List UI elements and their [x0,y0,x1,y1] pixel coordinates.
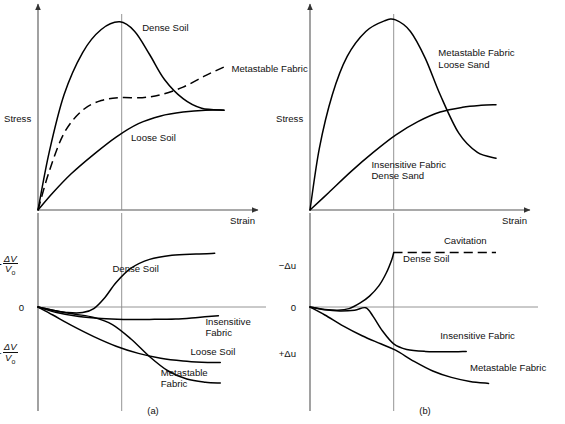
panel-a-volume-series-group: Dense SoilInsensitiveFabricLoose SoilMet… [38,253,251,389]
panel-a-stress-label-loose-soil: Loose Soil [131,132,176,143]
panel-b-stress-curve-insensitive-fabric-dense-sand [310,105,496,210]
panel-b-porepressure-zero-label: 0 [291,302,296,313]
panel-a-stress-curve-loose-soil [38,110,224,210]
panel-b-porepressure-curve-metastable-fabric [310,307,489,383]
caption-panel-a: (a) [147,405,158,416]
figure-container: StrainStress0StrainStress0Dense SoilMeta… [0,0,565,424]
panel-a-volume-label-dense-soil: Dense Soil [112,263,158,274]
fraction-sign: − [0,349,2,359]
panel-a-volume-label-metastable-fabric: MetastableFabric [161,367,208,390]
panel-b-axis-label-positive-delta-u: +Δu [279,348,296,359]
fraction-stack: ΔVVo [3,254,18,277]
panel-b-stress-x-axis-label: Strain [502,215,527,226]
panel-b-porepressure-label-cavitation: Cavitation [444,235,487,246]
panel-a-stress-series-group: Dense SoilMetastable FabricLoose Soil [38,22,308,210]
panel-b-stress-y-axis-label: Stress [276,113,303,124]
fraction-denominator: Vo [4,264,16,276]
panel-b-stress-label-insensitive-fabric-dense-sand: Insensitive FabricDense Sand [371,159,446,182]
panel-b-porepressure-series-group: CavitationDense SoilInsensitive FabricMe… [310,235,546,383]
panel-b-porepressure-label-insensitive-fabric: Insensitive Fabric [440,330,515,341]
panel-b-porepressure-label-metastable-fabric: Metastable Fabric [470,362,546,373]
panel-a-volume-zero-label: 0 [19,302,24,313]
panel-a-stress-curve-dense-soil [38,22,224,210]
caption-panel-b: (b) [419,405,430,416]
panel-a-volume-label-insensitive-fabric: InsensitiveFabric [205,316,250,339]
fraction-stack: ΔVVo [3,342,18,365]
panel-a-stress-label-dense-soil: Dense Soil [142,22,188,33]
panel-b-stress-series-group: Metastable FabricLoose SandInsensitive F… [310,19,515,210]
soil-behavior-figure: StrainStress0StrainStress0Dense SoilMeta… [0,0,565,424]
axis-label-positive-volumetric-strain: +ΔVVo [0,254,18,277]
panel-a-stress-y-axis-label: Stress [4,113,31,124]
panel-b-porepressure-curve-dense-soil [310,253,394,311]
panel-a-volume-label-loose-soil: Loose Soil [191,346,236,357]
axis-label-negative-volumetric-strain: −ΔVVo [0,342,18,365]
panel-b-porepressure-axes: 0 [291,213,538,411]
panel-b-stress-axes: StrainStress [276,4,530,226]
panel-a-stress-x-axis-label: Strain [230,215,255,226]
panel-b-stress-label-metastable-fabric-loose-sand: Metastable FabricLoose Sand [438,47,514,70]
panel-b-porepressure-label-dense-soil: Dense Soil [403,253,449,264]
fraction-sign: + [0,260,2,270]
panel-a-stress-label-metastable-fabric: Metastable Fabric [231,63,307,74]
panel-b-axis-label-negative-delta-u: −Δu [279,260,296,271]
fraction-denominator: Vo [4,353,16,365]
